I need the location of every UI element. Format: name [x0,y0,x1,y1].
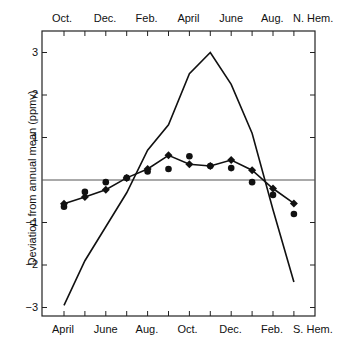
x-tick-label: Dec. [94,12,117,24]
plot-frame [42,31,315,316]
hemisphere-label: N. Hem. [293,12,333,24]
x-tick-label: April [177,12,199,24]
x-tick-label: Oct. [52,12,72,24]
x-tick-label: Aug. [136,323,159,335]
data-series [60,53,298,306]
x-tick-label: Feb. [136,12,158,24]
x-tick-label: Dec. [219,323,242,335]
y-axis-label: Deviation from annual mean (ppmv) [26,78,38,278]
x-tick-label: Oct. [177,323,197,335]
hemisphere-label: S. Hem. [293,323,333,335]
x-tick-label: Feb. [261,323,283,335]
chart-plot [0,0,340,355]
x-tick-label: June [94,323,118,335]
y-tick-label: −3 [18,301,38,313]
x-tick-label: Aug. [261,12,284,24]
x-tick-label: June [219,12,243,24]
x-tick-label: April [52,323,74,335]
axis-ticks [42,31,315,316]
y-tick-label: 3 [18,46,38,58]
